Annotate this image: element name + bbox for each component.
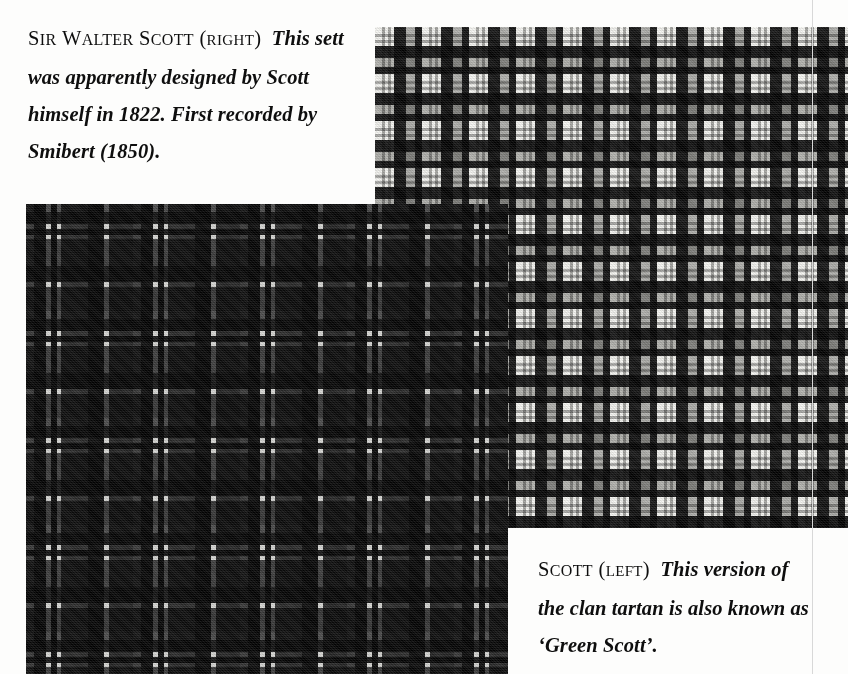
caption-top-lead-cap-1: S [28, 27, 40, 49]
caption-bottom-lead-cap-1: S [538, 558, 550, 580]
caption-bottom-gap [650, 558, 660, 580]
caption-bottom-paren-open: ( [598, 558, 605, 580]
caption-sir-walter-scott: SIR WALTER SCOTT (RIGHT) This sett was a… [28, 20, 358, 170]
tartan-left-weft-threads [26, 204, 508, 674]
caption-top-lead-sc-1: IR [40, 31, 57, 48]
caption-top-lead-cap-2: W [62, 27, 82, 49]
page-gutter-rule [812, 0, 813, 674]
caption-top-lead-sc-3: COTT [151, 31, 194, 48]
caption-bottom-paren-close: ) [643, 558, 650, 580]
caption-top-gap [261, 27, 271, 49]
caption-bottom-lead: SCOTT (LEFT) [538, 558, 650, 580]
caption-bottom-lead-sc-1: COTT [550, 562, 593, 579]
caption-top-lead: SIR WALTER SCOTT (RIGHT) [28, 27, 261, 49]
caption-top-lead-sc-2: ALTER [82, 31, 134, 48]
page-canvas: SIR WALTER SCOTT (RIGHT) This sett was a… [0, 0, 848, 674]
caption-top-side-word: RIGHT [207, 32, 255, 48]
caption-scott-green-scott: SCOTT (LEFT) This version of the clan ta… [538, 551, 810, 664]
caption-bottom-side-word: LEFT [606, 563, 643, 579]
tartan-swatch-left-green-scott [26, 204, 508, 674]
caption-top-lead-cap-3: S [139, 27, 151, 49]
caption-top-paren-open: ( [199, 27, 206, 49]
